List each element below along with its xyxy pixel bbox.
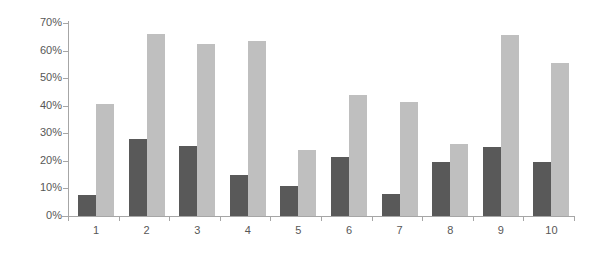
x-axis-tick-label-5: 5: [278, 224, 318, 236]
x-axis-tick-label-2: 2: [127, 224, 167, 236]
y-axis-tick-label: 50%: [24, 72, 62, 83]
y-axis-tick-label-text: 10%: [28, 182, 62, 193]
y-axis-tick-label-text: 20%: [28, 155, 62, 166]
x-axis-tick-mark: [220, 216, 221, 221]
y-axis-tick-label: 20%: [24, 155, 62, 166]
x-axis-tick-mark: [473, 216, 474, 221]
x-axis-tick-label-4: 4: [228, 224, 268, 236]
x-axis-tick-label-7: 7: [380, 224, 420, 236]
bar-series-1-category-9: [483, 147, 501, 216]
x-axis-tick-label-10: 10: [531, 224, 571, 236]
y-axis-tick-label: 70%: [24, 17, 62, 28]
y-axis-tick-label-text: 50%: [28, 72, 62, 83]
x-axis-tick-mark: [574, 216, 575, 221]
x-axis-tick-label-3: 3: [177, 224, 217, 236]
x-axis-tick-mark: [523, 216, 524, 221]
y-axis-tick-label-text: 30%: [28, 127, 62, 138]
bar-series-1-category-10: [533, 162, 551, 216]
bar-series-2-category-2: [147, 34, 165, 216]
bar-series-1-category-6: [331, 157, 349, 216]
y-axis-tick-label: 30%: [24, 127, 62, 138]
y-axis-tick-label-text: 40%: [28, 100, 62, 111]
bar-series-1-category-2: [129, 139, 147, 216]
bar-series-2-category-6: [349, 95, 367, 216]
bar-series-1-category-4: [230, 175, 248, 216]
bar-series-1-category-1: [78, 195, 96, 216]
x-axis-tick-mark: [372, 216, 373, 221]
bar-series-2-category-4: [248, 41, 266, 216]
plot-area: 0%10%20%30%40%50%60%70% 12345678910: [0, 0, 605, 253]
bar-series-2-category-5: [298, 150, 316, 216]
bar-series-2-category-7: [400, 102, 418, 216]
bar-series-2-category-3: [197, 44, 215, 216]
x-axis-line: [62, 216, 575, 217]
x-axis-tick-label-8: 8: [430, 224, 470, 236]
bar-series-2-category-10: [551, 63, 569, 216]
x-axis-tick-label-1: 1: [76, 224, 116, 236]
bar-series-1-category-5: [280, 186, 298, 216]
y-axis-line: [68, 21, 69, 217]
bar-series-1-category-3: [179, 146, 197, 216]
y-axis-tick-label: 10%: [24, 182, 62, 193]
x-axis-tick-mark: [422, 216, 423, 221]
y-axis-tick-label-text: 60%: [28, 45, 62, 56]
x-axis-tick-label-9: 9: [481, 224, 521, 236]
bar-series-2-category-8: [450, 144, 468, 216]
x-axis-tick-mark: [68, 216, 69, 221]
bar-series-1-category-8: [432, 162, 450, 216]
x-axis-tick-mark: [321, 216, 322, 221]
bar-series-2-category-1: [96, 104, 114, 216]
x-axis-tick-mark: [169, 216, 170, 221]
y-axis-tick-label: 60%: [24, 45, 62, 56]
y-axis-tick-label: 0%: [24, 210, 62, 221]
y-axis-tick-label-text: 70%: [28, 17, 62, 28]
x-axis-tick-mark: [119, 216, 120, 221]
bar-chart: 0%10%20%30%40%50%60%70% 12345678910: [0, 0, 605, 253]
bar-series-1-category-7: [382, 194, 400, 216]
bar-series-2-category-9: [501, 35, 519, 216]
x-axis-tick-mark: [270, 216, 271, 221]
y-axis-tick-label-text: 0%: [28, 210, 62, 221]
y-axis-tick-label: 40%: [24, 100, 62, 111]
x-axis-tick-label-6: 6: [329, 224, 369, 236]
